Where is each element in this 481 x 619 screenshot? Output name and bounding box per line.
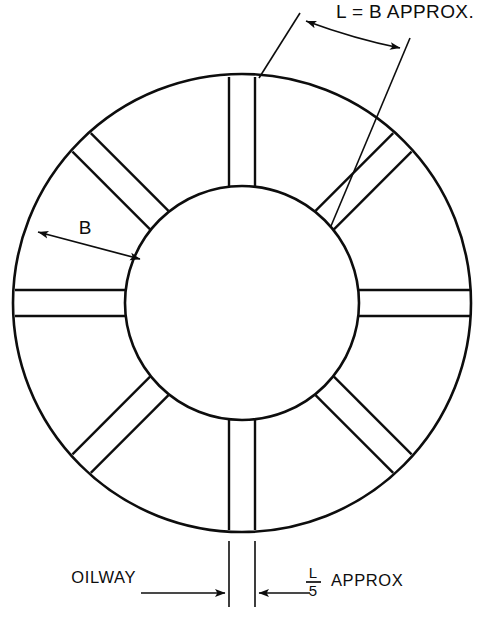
- arc-extension-line-right: [331, 38, 410, 226]
- fraction-denominator: 5: [309, 582, 317, 599]
- oilway-slot-upper-left: [72, 133, 168, 229]
- oilway-slot-top: [229, 77, 255, 186]
- fraction-numerator: L: [309, 564, 317, 581]
- oilway-slot-left: [15, 290, 125, 316]
- oilway-slot-lower-right: [316, 377, 412, 473]
- fraction-l-over-5: L 5: [306, 564, 321, 599]
- oilway-slot-right: [359, 290, 470, 316]
- arc-extension-line-left: [259, 13, 300, 78]
- inner-circle: [125, 186, 359, 420]
- radial-dimension-label: B: [79, 217, 92, 238]
- bearing-body: [13, 74, 471, 532]
- arc-dimension-arrow: [306, 21, 400, 48]
- oilway-callout-label: OILWAY: [71, 568, 136, 586]
- bearing-diagram: L = B APPROX. B OILWAY L 5 APPROX: [0, 0, 481, 619]
- oilway-slot-bottom: [229, 420, 255, 530]
- arc-dimension-label: L = B APPROX.: [336, 1, 474, 22]
- oilway-slot-lower-left: [72, 377, 168, 473]
- oilway-width-suffix-label: APPROX: [331, 571, 403, 589]
- oilway-width-dimension-group: OILWAY L 5 APPROX: [71, 541, 403, 607]
- outer-circle: [13, 74, 471, 532]
- bearing-drawing-canvas: L = B APPROX. B OILWAY L 5 APPROX: [0, 0, 481, 619]
- radial-dimension-group: B: [38, 217, 140, 259]
